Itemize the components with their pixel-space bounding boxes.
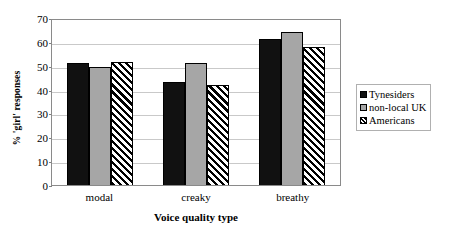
bar-group <box>52 20 148 185</box>
legend-swatch-icon <box>360 104 367 111</box>
x-axis-title: Voice quality type <box>51 211 341 223</box>
bar <box>185 63 207 185</box>
bar <box>207 85 229 185</box>
legend-label: Americans <box>369 115 414 126</box>
bar <box>67 63 89 185</box>
bar <box>89 67 111 185</box>
legend-label: non-local UK <box>369 102 426 113</box>
chart-legend: Tynesidersnon-local UKAmericans <box>356 84 431 131</box>
x-axis-tick-label: breathy <box>244 191 341 203</box>
bar <box>281 32 303 185</box>
y-axis-tick-label: 0 <box>22 181 48 192</box>
x-axis-tick-label: creaky <box>148 191 245 203</box>
y-axis-tick-label: 20 <box>22 133 48 144</box>
legend-swatch-icon <box>360 91 367 98</box>
x-axis-tick-label: modal <box>51 191 148 203</box>
y-axis-tick-label: 40 <box>22 85 48 96</box>
legend-item: Tynesiders <box>360 88 426 101</box>
bar-groups <box>52 20 340 185</box>
y-axis-tick-label: 60 <box>22 37 48 48</box>
bar-chart: % 'girl' responses 706050403020100 modal… <box>0 0 450 250</box>
y-axis-tick-mark <box>49 186 52 187</box>
bar-group <box>244 20 340 185</box>
y-axis-tick-label: 70 <box>22 14 48 25</box>
y-axis-tick-label: 50 <box>22 61 48 72</box>
bar <box>303 47 325 185</box>
plot-area <box>51 19 341 186</box>
legend-label: Tynesiders <box>369 89 414 100</box>
legend-item: non-local UK <box>360 101 426 114</box>
bar-group <box>148 20 244 185</box>
y-axis-title: % 'girl' responses <box>12 48 22 168</box>
legend-item: Americans <box>360 114 426 127</box>
bar <box>259 39 281 185</box>
x-axis-tick-labels: modalcreakybreathy <box>51 191 341 203</box>
bar <box>163 82 185 185</box>
y-axis-tick-label: 30 <box>22 109 48 120</box>
y-axis-tick-label: 10 <box>22 157 48 168</box>
legend-swatch-icon <box>360 117 367 124</box>
bar <box>111 62 133 185</box>
y-axis-tick-labels: 706050403020100 <box>22 0 48 250</box>
